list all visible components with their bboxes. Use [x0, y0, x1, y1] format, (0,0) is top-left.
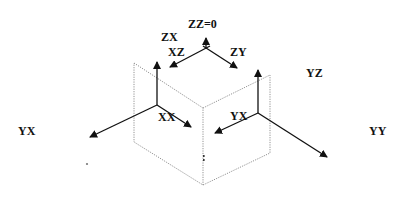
right-plane — [203, 75, 270, 185]
mark — [203, 155, 205, 157]
axes-diagram: ZZ=0 ZX XZ ZY YZ YX XX YX YY — [0, 0, 406, 199]
left-axes — [90, 62, 191, 137]
label-yz: YZ — [306, 67, 323, 79]
label-zz: ZZ=0 — [188, 18, 217, 30]
dot — [86, 163, 88, 165]
label-xz: XZ — [168, 46, 185, 58]
mark — [203, 159, 205, 161]
yy-axis-arrow — [258, 113, 327, 157]
label-yy: YY — [369, 125, 386, 137]
label-yx-right: YX — [230, 110, 247, 122]
label-zx: ZX — [161, 31, 178, 43]
label-yx-left: YX — [18, 125, 35, 137]
yx-left-axis-arrow — [90, 105, 157, 137]
label-xx: XX — [158, 111, 175, 123]
label-zy: ZY — [230, 46, 247, 58]
left-plane — [134, 63, 203, 185]
